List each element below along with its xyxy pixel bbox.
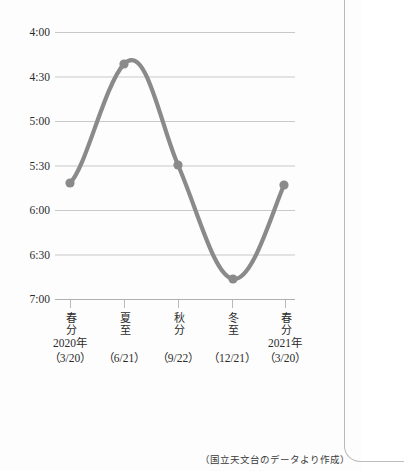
x-tick-date-4: （3/20）	[242, 353, 328, 365]
x-tick-year-4: 2021年	[242, 338, 328, 352]
y-tick-label-0: 4:00	[4, 26, 50, 38]
x-tick-term-0: 春分	[64, 312, 76, 335]
y-tick-label-6: 7:00	[4, 293, 50, 305]
x-tick-term-1: 夏至	[118, 312, 130, 335]
data-point-shunbun-2020	[65, 178, 74, 187]
y-tick-label-2: 5:00	[4, 115, 50, 127]
data-point-markers	[65, 59, 288, 283]
y-tick-label-4: 6:00	[4, 204, 50, 216]
y-tick-label-5: 6:30	[4, 249, 50, 261]
y-tick-label-1: 4:30	[4, 71, 50, 83]
x-tick-term-3: 冬至	[226, 312, 238, 335]
data-point-shubun	[173, 160, 182, 169]
x-tick-group-4: 春分 2021年 （3/20）	[242, 312, 328, 365]
data-point-toji	[228, 274, 237, 283]
data-point-geshi	[119, 59, 128, 68]
y-tick-label-3: 5:30	[4, 160, 50, 172]
source-note: （国立天文台のデータより作成）	[200, 452, 350, 466]
x-tick-term-2: 秋分	[172, 312, 184, 335]
data-point-shunbun-2021	[279, 180, 288, 189]
x-axis-ticks	[71, 300, 286, 309]
x-tick-term-4: 春分	[279, 312, 291, 335]
sunrise-curve	[70, 60, 284, 279]
